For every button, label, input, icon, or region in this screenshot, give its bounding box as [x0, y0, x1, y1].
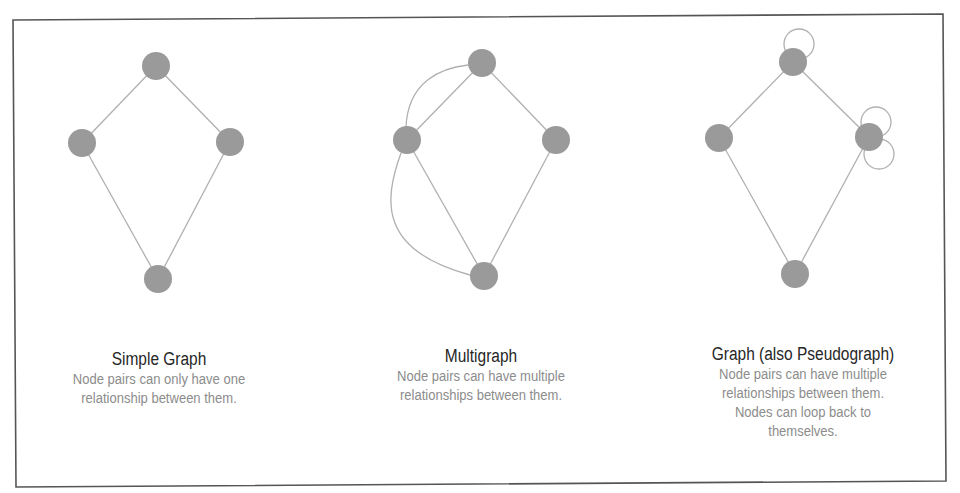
- edge-top-left-curved: [406, 65, 468, 127]
- pseudograph-title: Graph (also Pseudograph): [674, 344, 932, 364]
- description-line: themselves.: [677, 421, 929, 440]
- multigraph-title: Multigraph: [352, 346, 610, 366]
- pseudograph-edges: [719, 62, 869, 274]
- node-right: [542, 126, 570, 154]
- edge-left-bottom-curved: [391, 153, 470, 275]
- edge-left-bottom: [407, 140, 484, 276]
- multigraph-edges: [391, 63, 556, 276]
- pseudograph-caption: Graph (also Pseudograph) Node pairs can …: [653, 344, 953, 440]
- node-bottom: [470, 262, 498, 290]
- edge-right-bottom: [795, 137, 869, 274]
- edge-top-left: [82, 66, 156, 143]
- description-line: Node pairs can have multiple: [677, 364, 929, 383]
- description-line: Node pairs can only have one: [33, 369, 285, 388]
- edge-top-right: [793, 62, 869, 137]
- node-right: [855, 123, 883, 151]
- edge-top-right: [482, 63, 556, 140]
- edge-left-bottom: [719, 138, 795, 274]
- simple-graph-edges: [82, 66, 230, 279]
- edge-top-left: [719, 62, 793, 138]
- pseudograph-nodes: [705, 48, 883, 288]
- simple-graph-caption: Simple Graph Node pairs can only have on…: [9, 349, 309, 407]
- edge-top-right: [156, 66, 230, 142]
- node-bottom: [781, 260, 809, 288]
- node-top: [779, 48, 807, 76]
- description-line: Nodes can loop back to: [677, 402, 929, 421]
- node-top: [142, 52, 170, 80]
- node-left: [68, 129, 96, 157]
- node-right: [216, 128, 244, 156]
- pseudograph-diagram: [705, 29, 894, 288]
- multigraph-caption: Multigraph Node pairs can have multiple …: [331, 346, 631, 404]
- multigraph-nodes: [393, 49, 570, 290]
- simple-graph-nodes: [68, 52, 244, 293]
- node-left: [705, 124, 733, 152]
- node-bottom: [144, 265, 172, 293]
- edge-right-bottom: [158, 142, 230, 279]
- description-line: relationships between them.: [355, 385, 607, 404]
- simple-graph-title: Simple Graph: [30, 349, 288, 369]
- simple-graph-description: Node pairs can only have one relationshi…: [33, 369, 285, 407]
- edge-top-left: [407, 63, 482, 140]
- node-top: [468, 49, 496, 77]
- edge-left-bottom: [82, 143, 158, 279]
- simple-graph-diagram: [68, 52, 244, 293]
- description-line: relationship between them.: [33, 388, 285, 407]
- graph-types-figure: Simple Graph Node pairs can only have on…: [0, 0, 960, 493]
- description-line: relationships between them.: [677, 383, 929, 402]
- multigraph-diagram: [391, 49, 570, 290]
- edge-right-bottom: [484, 140, 556, 276]
- pseudograph-description: Node pairs can have multiple relationshi…: [677, 364, 929, 440]
- multigraph-description: Node pairs can have multiple relationshi…: [355, 366, 607, 404]
- node-left: [393, 126, 421, 154]
- description-line: Node pairs can have multiple: [355, 366, 607, 385]
